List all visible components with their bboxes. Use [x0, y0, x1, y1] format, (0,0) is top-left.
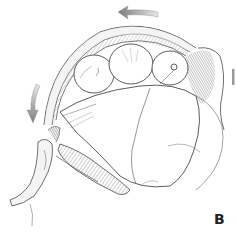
sketch-drawing	[0, 0, 236, 237]
right-marker-icon	[232, 69, 235, 85]
left-arrow-icon	[27, 84, 40, 123]
illustration-canvas: B	[0, 0, 236, 237]
panel-label: B	[214, 211, 225, 227]
hand	[10, 126, 60, 226]
top-arrow-icon	[118, 6, 158, 19]
